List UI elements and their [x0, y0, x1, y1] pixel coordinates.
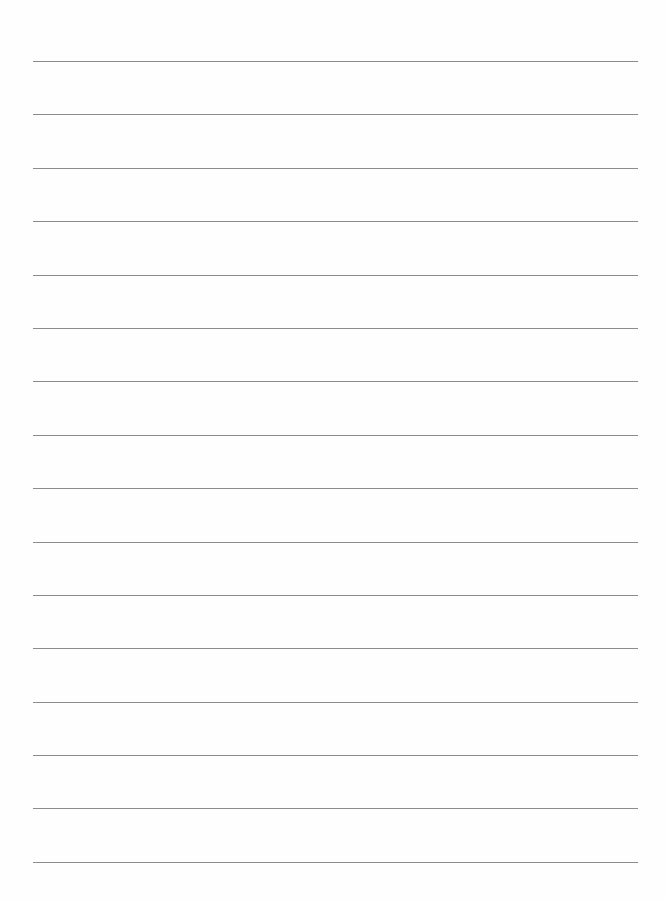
ruled-line	[33, 221, 638, 222]
ruled-line	[33, 381, 638, 382]
lined-paper-page	[0, 0, 666, 902]
ruled-line	[33, 808, 638, 809]
ruled-line	[33, 114, 638, 115]
ruled-line	[33, 862, 638, 863]
ruled-line	[33, 595, 638, 596]
ruled-line	[33, 328, 638, 329]
ruled-line	[33, 435, 638, 436]
ruled-line	[33, 702, 638, 703]
ruled-line	[33, 168, 638, 169]
ruled-line	[33, 275, 638, 276]
ruled-line	[33, 648, 638, 649]
ruled-line	[33, 542, 638, 543]
ruled-line	[33, 755, 638, 756]
ruled-line	[33, 488, 638, 489]
ruled-line	[33, 61, 638, 62]
